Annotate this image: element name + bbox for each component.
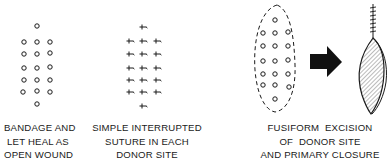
caption-fusiform-excision: FUSIFORM EXCISION OF DONOR SITE AND PRIM…	[255, 121, 385, 162]
caption-line: BANDAGE AND	[4, 121, 72, 135]
open-wound-dot-grid	[21, 24, 52, 106]
caption-line: OPEN WOUND	[4, 148, 72, 162]
caption-line: AND PRIMARY CLOSURE	[255, 148, 385, 162]
suture-grid	[127, 25, 162, 109]
caption-line: DONOR SITE	[87, 148, 207, 162]
caption-open-wound: BANDAGE AND LET HEAL AS OPEN WOUND	[4, 121, 72, 162]
fusiform-dot-grid	[261, 18, 291, 101]
right-arrow-icon	[310, 46, 342, 77]
caption-line: SUTURE IN EACH	[87, 135, 207, 149]
primary-closure-illustration	[359, 4, 386, 114]
caption-line: SIMPLE INTERRUPTED	[87, 121, 207, 135]
caption-line: OF DONOR SITE	[255, 135, 385, 149]
caption-line: FUSIFORM EXCISION	[255, 121, 385, 135]
caption-simple-interrupted-suture: SIMPLE INTERRUPTED SUTURE IN EACH DONOR …	[87, 121, 207, 162]
caption-line: LET HEAL AS	[4, 135, 72, 149]
